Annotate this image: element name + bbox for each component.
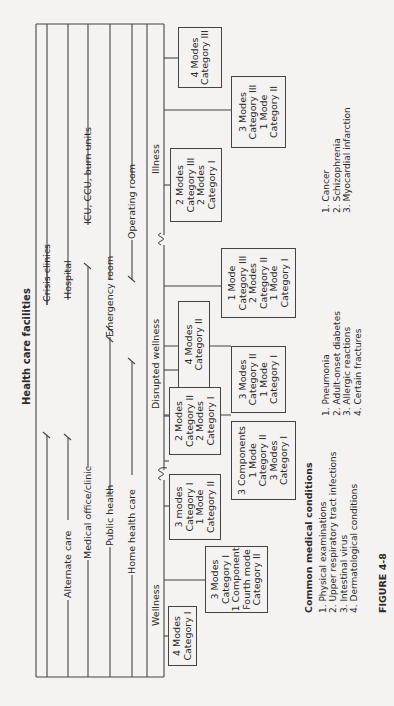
diagram-title: Health care facilities [21,288,32,405]
conditions-disrupted-wellness: 1. Pneumonia 2. Adult-onset diabetes 3. … [321,311,363,416]
stage-disrupted-wellness: Disrupted wellness [150,319,161,409]
label-public-health: Public health [104,485,115,546]
box-disrupted-3: 3 ModesCategory II1 ModeCategory I [231,346,286,413]
label-icu: ICU, CCU, burn units [82,127,93,224]
box-disrupted-5: 1 ModeCategory III2 ModesCategory II1 Mo… [221,248,296,318]
stage-wellness: Wellness [150,584,161,626]
label-medical-office: Medical office/clinic [82,466,93,559]
box-disrupted-1: 3 Components1 ModeCategory II3 ModesCate… [231,421,296,500]
label-home-health-care: Home health care [126,489,137,574]
box-disrupted-4: 4 ModesCategory II [178,301,210,388]
box-illness-3: 4 ModesCategory III [178,27,222,88]
stage-illness: Illness [150,144,161,174]
diagram-canvas: Health care facilities Crisis clinics Al… [0,0,394,706]
label-emergency-room: Emergency room [104,256,115,337]
box-illness-1: 2 ModesCategory III2 ModesCategory I [170,148,222,222]
figure-label: FIGURE 4-8 [377,553,388,613]
box-wellness-1: 4 ModesCategory I [168,606,197,666]
conditions-heading: Common medical conditions [304,451,315,613]
box-wellness-3: 3 modesCategory I1 ModeCategory II [169,474,221,540]
label-operating-room: Operating room [126,164,137,239]
label-alternate-care: Alternate care [62,531,73,598]
label-crisis-clinics: Crisis clinics [41,244,52,302]
box-illness-2: 3 ModesCategory III1 ModeCategory II [231,76,286,148]
conditions-wellness: Common medical conditions 1. Physical ex… [304,451,360,613]
conditions-illness: 1. Cancer 2. Schizophrenia 3. Myocardial… [321,107,353,213]
label-hospital: Hospital [62,260,73,299]
box-wellness-2: 3 ModesCategory I1 ComponentFourth modeC… [205,546,268,613]
box-disrupted-2: 2 ModesCategory II2 ModesCategory I [169,387,221,455]
